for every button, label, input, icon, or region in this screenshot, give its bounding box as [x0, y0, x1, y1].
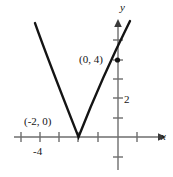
y-tick-label-2: 2: [124, 94, 130, 105]
y-axis-arrow-icon: [114, 19, 122, 27]
parabola-figure: y x -4 2 (0, 4) (-2, 0): [0, 0, 173, 177]
x-axis-label: x: [161, 131, 166, 142]
x-tick-label--4: -4: [33, 146, 42, 157]
point-label-y-intercept: (0, 4): [79, 54, 103, 65]
point-label-vertex: (-2, 0): [24, 116, 52, 127]
plot-canvas: [0, 0, 173, 177]
y-axis-label: y: [120, 2, 125, 13]
point-marker-0-4: [115, 57, 120, 62]
